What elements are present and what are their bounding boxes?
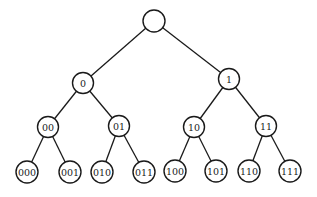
tree-node-01: 01 [109, 116, 130, 137]
tree-node-00: 00 [38, 117, 59, 138]
node-label: 101 [207, 166, 225, 177]
tree-node-001: 001 [59, 161, 81, 183]
node-label: 000 [18, 167, 36, 178]
node-label: 010 [93, 167, 111, 178]
tree-node-101: 101 [205, 160, 227, 182]
node-label: 110 [240, 166, 258, 177]
node-label: 011 [135, 167, 153, 178]
node-circle [143, 10, 165, 32]
tree-node-0: 0 [73, 73, 94, 94]
tree-node-010: 010 [91, 161, 113, 183]
node-label: 01 [113, 121, 125, 132]
node-label: 1 [226, 74, 232, 85]
node-label: 11 [260, 121, 272, 132]
tree-edge-root-n1 [154, 21, 229, 79]
node-label: 100 [166, 166, 184, 177]
tree-node-11: 11 [256, 116, 277, 137]
tree-nodes: 0100011011000001010011100101110111 [16, 10, 301, 183]
node-label: 111 [281, 166, 299, 177]
tree-node-111: 111 [279, 160, 301, 182]
tree-edge-root-n0 [83, 21, 154, 83]
binary-tree-diagram: 0100011011000001010011100101110111 [0, 0, 317, 197]
tree-node-000: 000 [16, 161, 38, 183]
tree-node-1: 1 [219, 69, 240, 90]
tree-node-10: 10 [184, 117, 205, 138]
node-label: 0 [80, 78, 86, 89]
node-label: 00 [42, 122, 54, 133]
tree-node-011: 011 [133, 161, 155, 183]
tree-edges [27, 21, 290, 172]
node-label: 001 [61, 167, 79, 178]
tree-node-110: 110 [238, 160, 260, 182]
tree-node-root [143, 10, 165, 32]
tree-node-100: 100 [164, 160, 186, 182]
node-label: 10 [188, 122, 200, 133]
